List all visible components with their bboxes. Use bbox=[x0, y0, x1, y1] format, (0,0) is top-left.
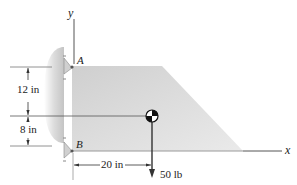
wall bbox=[44, 47, 64, 143]
dimension-upper-label: 12 in bbox=[17, 84, 39, 95]
diagram-canvas: y x A B 12 in 8 in 20 in 50 lb bbox=[0, 0, 297, 185]
plate bbox=[72, 66, 243, 151]
y-axis-label: y bbox=[68, 7, 73, 19]
point-b-label: B bbox=[76, 139, 83, 150]
centroid-icon bbox=[146, 110, 158, 122]
load-label: 50 lb bbox=[160, 169, 182, 180]
dimension-lower-label: 8 in bbox=[20, 124, 37, 135]
dimension-horizontal-label: 20 in bbox=[101, 159, 123, 170]
point-a-label: A bbox=[77, 55, 84, 66]
x-axis-label: x bbox=[285, 144, 290, 156]
